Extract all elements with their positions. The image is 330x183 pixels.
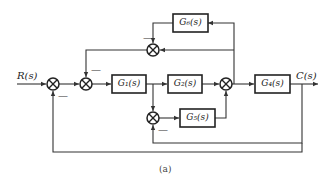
minus-sign-s5: — <box>158 125 168 135</box>
minus-sign-s2: — <box>91 65 101 75</box>
summing-junction-s2 <box>80 78 92 90</box>
summing-junction-s3 <box>220 78 232 90</box>
block-g5-label: G₅(s) <box>180 113 215 122</box>
summing-junction-s5 <box>147 112 159 124</box>
wire-g5-s3 <box>215 91 226 118</box>
output-label: C(s) <box>296 71 317 81</box>
summing-junction-s4 <box>147 44 159 56</box>
block-g2-label: G₂(s) <box>168 79 202 88</box>
block-g1-label: G₁(s) <box>112 79 146 88</box>
minus-sign-s1: — <box>58 91 68 101</box>
block-g4-label: G₄(s) <box>255 79 290 88</box>
minus-sign-s4: — <box>143 33 153 43</box>
block-diagram-canvas <box>0 0 330 183</box>
figure-caption: (a) <box>159 165 171 174</box>
summing-junction-s1 <box>47 78 59 90</box>
block-g6-label: G₆(s) <box>173 18 208 27</box>
input-label: R(s) <box>17 71 37 81</box>
wire-s3-takeoff-up <box>208 23 234 84</box>
wire-g6-s4 <box>153 23 173 43</box>
